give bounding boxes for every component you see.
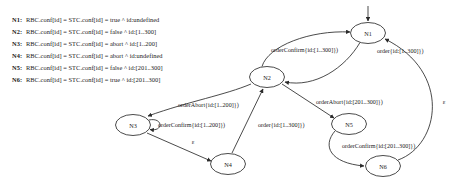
node-n5-label: N5 — [345, 121, 353, 128]
node-n3-label: N3 — [129, 122, 137, 129]
node-n4-label: N4 — [224, 161, 232, 168]
edge-label-orderconfirm-n5-n6: orderConfirm{id:[201..300]}) — [342, 143, 415, 150]
edge-label-orderabort-n2-n3: orderAbort{id:[1..200]}) — [178, 102, 239, 109]
edge-label-orderconfirm-n2-n1: orderConfirm{id:[1..300]}) — [271, 47, 338, 54]
node-n2-label: N2 — [263, 74, 271, 81]
edge-label-order-n1-n2: order{id:[1..300]}) — [377, 48, 423, 55]
edge-n6-n1 — [385, 39, 432, 160]
node-n2[interactable]: N2 — [250, 67, 285, 88]
edge-n4-n2 — [232, 89, 263, 153]
edge-label-orderabort-n2-n5: orderAbort{id:[201..300]}) — [316, 99, 383, 106]
node-n6-label: N6 — [379, 163, 387, 170]
node-n4[interactable]: N4 — [211, 154, 246, 175]
node-n1-label: N1 — [364, 30, 372, 37]
node-n1[interactable]: N1 — [351, 23, 386, 44]
edge-label-orderconfirm-n3-n3: orderConfirm{id:[1..200]}) — [158, 122, 225, 129]
state-machine-graph: N1 N2 N3 N4 N5 N6 order{ — [0, 0, 472, 184]
edge-n2-n3 — [148, 84, 251, 116]
diagram-page: N1: RBC.conf[id] = STC.conf[id] = true ^… — [0, 0, 472, 184]
node-n5[interactable]: N5 — [332, 114, 367, 135]
edge-label-order-n4-n2: order{id:[1..300]}) — [258, 122, 304, 129]
node-n3[interactable]: N3 — [116, 115, 151, 136]
edge-n3-n4 — [147, 133, 211, 161]
edge-label-epsilon-n6-n1: ε — [443, 99, 446, 105]
edge-label-epsilon-n3-n4: ε — [192, 139, 195, 145]
node-n6[interactable]: N6 — [366, 156, 401, 177]
